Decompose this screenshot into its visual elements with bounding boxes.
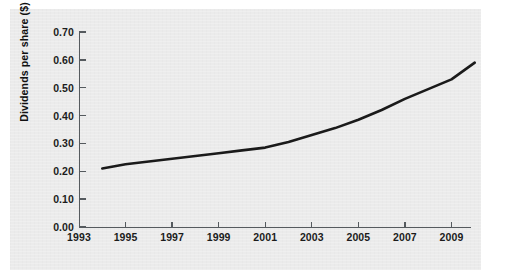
line-series-dividends-per-share (102, 63, 474, 169)
data-series-layer (0, 0, 508, 279)
chart-figure: Dividends per share ($) 0.000.100.200.30… (0, 0, 508, 279)
